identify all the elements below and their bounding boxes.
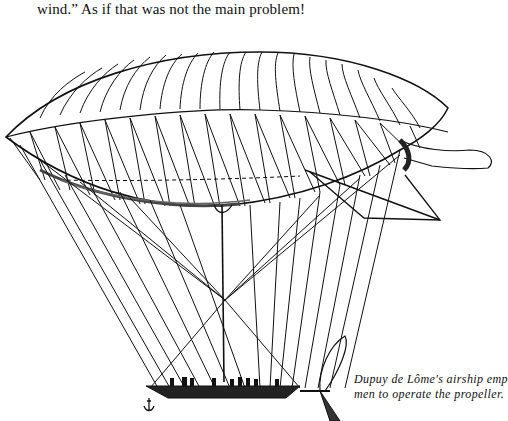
- gondola: [146, 386, 300, 398]
- anchor: [144, 398, 154, 411]
- caption-line: Dupuy de Lôme's airship emp: [354, 372, 508, 387]
- caption-line: men to operate the propeller.: [354, 387, 508, 402]
- airship-illustration: [0, 40, 499, 421]
- body-text-line: wind.” As if that was not the main probl…: [37, 0, 305, 18]
- figure-caption: Dupuy de Lôme's airship emp men to opera…: [354, 372, 508, 402]
